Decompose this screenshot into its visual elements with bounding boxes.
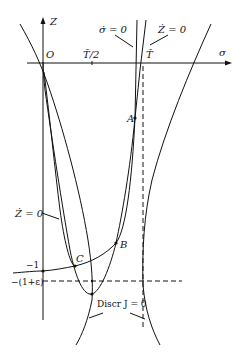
sigma-axis <box>27 61 232 66</box>
label-point-B: B <box>119 239 127 250</box>
z-dot-zero-curve-left <box>44 72 75 266</box>
pointer-sigma-dot <box>115 35 133 47</box>
pointer-z-dot-top <box>150 35 168 45</box>
point-bottom <box>90 292 93 295</box>
tick-label-half-T: T̃/2 <box>83 49 99 60</box>
point-C <box>73 264 76 267</box>
phase-diagram: Z σ O T̃/2 T̃ σ̇ = 0 Ż = 0 Ż = 0 A B C −… <box>0 0 234 362</box>
label-z-dot-zero-left: Ż = 0 <box>14 208 44 219</box>
discr-curve-left <box>20 24 92 345</box>
label-discr: Discr J = 0 <box>97 299 147 309</box>
discr-curve-right <box>143 24 211 345</box>
arrow-right-icon <box>225 61 232 66</box>
pointer-discr-left <box>89 313 103 318</box>
origin-label: O <box>46 49 54 60</box>
tick-label-minus-one: −1 <box>26 260 39 270</box>
point-B <box>114 241 117 244</box>
point-dashed-intersection <box>91 280 93 282</box>
point-minus-one <box>41 269 44 272</box>
label-point-A: A <box>126 113 134 124</box>
label-point-C: C <box>76 253 84 264</box>
z-axis-label: Z <box>49 16 58 27</box>
label-sigma-dot-zero: σ̇ = 0 <box>99 24 128 35</box>
tick-label-T: T̃ <box>146 49 154 60</box>
sigma-axis-label: σ <box>219 47 227 58</box>
tick-label-minus-one-plus-eps: −(1+ε) <box>11 277 44 287</box>
label-z-dot-zero-top: Ż = 0 <box>157 24 187 35</box>
arrow-up-icon <box>41 17 46 24</box>
trajectory-through-C-B <box>13 118 135 273</box>
pointer-z-dot-left <box>42 213 59 219</box>
